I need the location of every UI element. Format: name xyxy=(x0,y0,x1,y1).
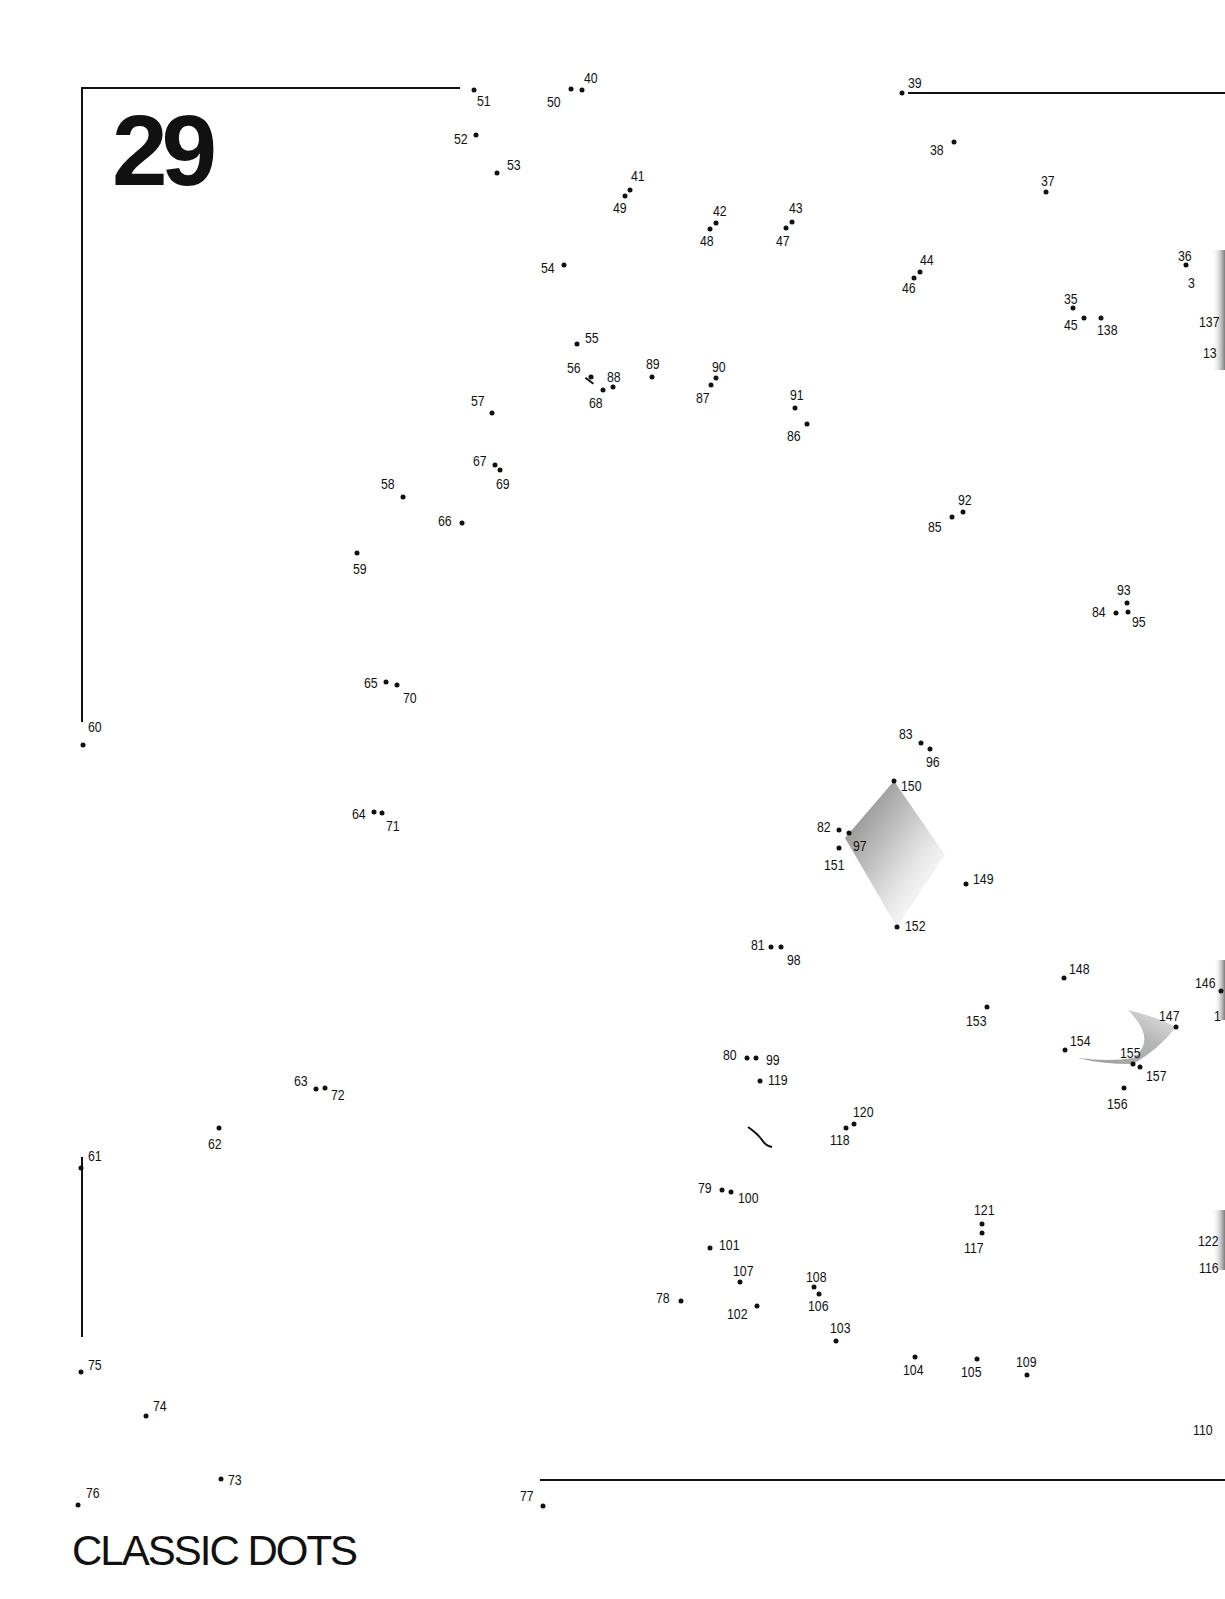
dot-70 xyxy=(395,683,400,688)
dot-101 xyxy=(708,1246,713,1251)
curve-stroke xyxy=(748,1127,772,1147)
dot-label-60: 60 xyxy=(88,719,102,734)
dot-62 xyxy=(217,1126,222,1131)
dot-107 xyxy=(738,1280,743,1285)
bottom-line xyxy=(540,1479,1225,1481)
dot-label-122: 122 xyxy=(1198,1233,1219,1248)
dot-label-103: 103 xyxy=(830,1320,851,1335)
dot-63 xyxy=(314,1087,319,1092)
dot-label-83: 83 xyxy=(899,726,913,741)
dot-label-68: 68 xyxy=(589,395,603,410)
dot-152 xyxy=(895,925,900,930)
dot-label-55: 55 xyxy=(585,330,599,345)
dot-label-40: 40 xyxy=(584,70,598,85)
dot-56 xyxy=(589,375,594,380)
dot-108 xyxy=(812,1285,817,1290)
dot-label-72: 72 xyxy=(331,1087,345,1102)
dot-151 xyxy=(837,846,842,851)
dot-label-88: 88 xyxy=(607,369,621,384)
dot-label-84: 84 xyxy=(1092,604,1106,619)
dot-58 xyxy=(401,495,406,500)
dot-87 xyxy=(709,383,714,388)
dot-label-156: 156 xyxy=(1107,1096,1128,1111)
dot-label-49: 49 xyxy=(613,200,627,215)
dot-97 xyxy=(847,831,852,836)
dot-label-101: 101 xyxy=(719,1237,740,1252)
dot-label-82: 82 xyxy=(817,819,831,834)
dot-label-65: 65 xyxy=(364,675,378,690)
dot-label-51: 51 xyxy=(477,93,491,108)
dot-label-63: 63 xyxy=(294,1073,308,1088)
top-right-line xyxy=(908,92,1225,94)
dot-47 xyxy=(784,226,789,231)
dot-label-56: 56 xyxy=(567,360,581,375)
dot-label-85: 85 xyxy=(928,519,942,534)
dot-55 xyxy=(575,342,580,347)
dot-label-153: 153 xyxy=(966,1013,987,1028)
dot-label-93: 93 xyxy=(1117,582,1131,597)
dot-109 xyxy=(1025,1373,1030,1378)
dot-label-39: 39 xyxy=(908,75,922,90)
dot-label-149: 149 xyxy=(973,871,994,886)
dot-label-107: 107 xyxy=(733,1263,754,1278)
dot-37 xyxy=(1044,190,1049,195)
dot-label-44: 44 xyxy=(920,252,934,267)
dot-label-13: 13 xyxy=(1203,345,1217,360)
dot-label-50: 50 xyxy=(547,94,561,109)
dot-40 xyxy=(580,88,585,93)
dot-119 xyxy=(758,1079,763,1084)
dot-label-87: 87 xyxy=(696,390,710,405)
dot-39 xyxy=(900,91,905,96)
dot-91 xyxy=(793,406,798,411)
dot-label-37: 37 xyxy=(1041,173,1055,188)
dot-153 xyxy=(985,1005,990,1010)
dot-label-36: 36 xyxy=(1178,248,1192,263)
dot-label-77: 77 xyxy=(520,1488,534,1503)
dot-42 xyxy=(714,221,719,226)
dot-67 xyxy=(493,463,498,468)
dot-147 xyxy=(1174,1025,1179,1030)
dot-98 xyxy=(779,945,784,950)
dot-label-47: 47 xyxy=(776,233,790,248)
dot-label-69: 69 xyxy=(496,476,510,491)
dot-label-157: 157 xyxy=(1146,1068,1167,1083)
dot-74 xyxy=(144,1414,149,1419)
dot-65 xyxy=(384,680,389,685)
dot-label-155: 155 xyxy=(1120,1045,1141,1060)
dot-82 xyxy=(837,828,842,833)
dot-label-148: 148 xyxy=(1069,961,1090,976)
dot-label-75: 75 xyxy=(88,1357,102,1372)
dot-label-89: 89 xyxy=(646,356,660,371)
dot-83 xyxy=(919,741,924,746)
dot-120 xyxy=(852,1122,857,1127)
dot-78 xyxy=(679,1299,684,1304)
dot-label-138: 138 xyxy=(1097,322,1118,337)
dot-64 xyxy=(372,810,377,815)
dot-157 xyxy=(1138,1065,1143,1070)
dot-label-52: 52 xyxy=(454,131,468,146)
dot-label-46: 46 xyxy=(902,280,916,295)
dot-label-152: 152 xyxy=(905,918,926,933)
dot-85 xyxy=(950,515,955,520)
dot-95 xyxy=(1126,610,1131,615)
dot-label-43: 43 xyxy=(789,200,803,215)
dot-label-71: 71 xyxy=(386,818,400,833)
dot-label-110: 110 xyxy=(1193,1422,1213,1437)
dot-label-67: 67 xyxy=(473,453,487,468)
dot-71 xyxy=(380,811,385,816)
dot-80 xyxy=(745,1056,750,1061)
dot-44 xyxy=(918,270,923,275)
dot-90 xyxy=(714,376,719,381)
dot-label-121: 121 xyxy=(974,1202,995,1217)
dot-label-117: 117 xyxy=(964,1240,984,1255)
dot-50 xyxy=(569,87,574,92)
dot-label-57: 57 xyxy=(471,393,485,408)
dot-label-59: 59 xyxy=(353,561,367,576)
dot-label-53: 53 xyxy=(507,157,521,172)
dot-label-119: 119 xyxy=(768,1072,788,1087)
dot-label-104: 104 xyxy=(903,1362,924,1377)
dot-label-102: 102 xyxy=(727,1306,748,1321)
dot-label-96: 96 xyxy=(926,754,940,769)
dot-146 xyxy=(1219,989,1224,994)
dot-48 xyxy=(708,227,713,232)
